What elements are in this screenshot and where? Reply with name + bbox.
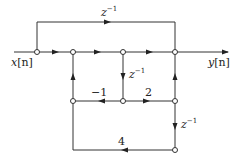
arrow-down-icon [121, 73, 126, 80]
node-m1 [71, 99, 76, 104]
node-m3 [173, 99, 178, 104]
arrow-right-icon [94, 50, 101, 55]
signal-flow-diagram: z−1 z−1 z−1 −1 2 4 x[n] y[n] [0, 0, 242, 158]
node-n3 [121, 50, 126, 55]
node-n2 [71, 50, 76, 55]
gain-2-label: 2 [145, 86, 152, 99]
node-b3 [173, 148, 178, 153]
center-delay-label: z−1 [128, 67, 145, 81]
right-delay-label: z−1 [180, 117, 197, 131]
arrow-left-icon [98, 99, 105, 104]
arrow-right-icon [146, 50, 153, 55]
arrow-right-icon [104, 20, 111, 25]
node-m2 [121, 99, 126, 104]
node-n4 [173, 50, 178, 55]
arrow-up-icon [71, 73, 76, 80]
input-label: x[n] [11, 56, 33, 69]
arrow-left-icon [121, 148, 128, 153]
arrow-up-icon [173, 73, 178, 80]
arrow-right-icon [52, 50, 59, 55]
gain-neg1-label: −1 [91, 86, 107, 99]
arrow-right-icon [143, 99, 150, 104]
gain-4-label: 4 [118, 135, 125, 148]
node-n1 [35, 50, 40, 55]
output-label: y[n] [207, 56, 230, 69]
arrow-right-icon [222, 50, 229, 55]
top-delay-label: z−1 [100, 5, 117, 19]
arrow-down-icon [173, 123, 178, 130]
top-delay-branch [37, 22, 175, 52]
